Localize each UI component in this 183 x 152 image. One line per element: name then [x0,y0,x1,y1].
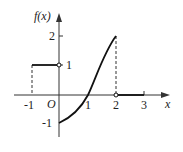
origin-label: O [47,97,56,111]
open-point-0-1 [57,63,61,67]
y-tick-label-1: 1 [66,58,72,72]
x-axis-label: x [164,97,171,111]
y-axis-arrow-icon [56,13,62,22]
y-tick-label-neg1: -1 [42,116,52,130]
y-axis-label: f(x) [34,9,51,23]
function-graph: f(x) x O -1 1 2 3 2 1 -1 [0,0,183,152]
x-tick-label-neg1: -1 [24,98,34,112]
open-point-2-0 [114,93,118,97]
y-tick-label-2: 2 [49,29,55,43]
x-tick-label-3: 3 [141,98,147,112]
x-tick-label-2: 2 [113,98,119,112]
x-tick-label-1: 1 [85,98,91,112]
